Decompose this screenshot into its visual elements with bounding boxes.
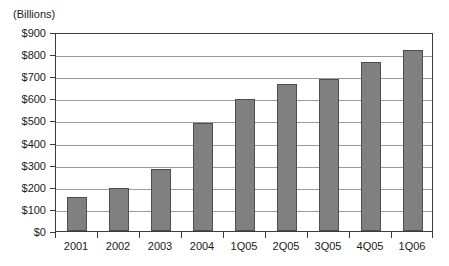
- x-axis-tick-label: 2001: [64, 240, 88, 253]
- y-axis-tick-label: $0: [34, 227, 46, 238]
- bar: [151, 169, 171, 231]
- x-axis-tick: [432, 232, 433, 238]
- x-axis-tick-label: 2Q05: [273, 240, 300, 253]
- y-axis: $0$100$200$300$400$500$600$700$800$900: [0, 0, 55, 266]
- y-axis-tick-label: $600: [22, 94, 46, 105]
- y-axis-tick-label: $900: [22, 28, 46, 39]
- y-axis-tick-label: $700: [22, 72, 46, 83]
- x-axis-tick: [55, 232, 56, 238]
- bar: [319, 79, 339, 231]
- x-axis-tick: [349, 232, 350, 238]
- y-axis-tick-label: $300: [22, 160, 46, 171]
- bar: [403, 50, 423, 231]
- x-axis-tick: [265, 232, 266, 238]
- x-axis-tick-label: 1Q06: [399, 240, 426, 253]
- bar: [67, 197, 87, 231]
- x-axis-tick-label: 3Q05: [315, 240, 342, 253]
- bar: [235, 99, 255, 231]
- bar-series: [56, 34, 432, 231]
- x-axis-ticks: [55, 232, 433, 238]
- x-axis-tick: [391, 232, 392, 238]
- x-axis-tick-label: 4Q05: [357, 240, 384, 253]
- plot-area: [55, 33, 433, 232]
- bar: [277, 84, 297, 231]
- x-axis-tick: [307, 232, 308, 238]
- bar: [109, 188, 129, 231]
- y-axis-tick-label: $100: [22, 204, 46, 215]
- x-axis-tick-label: 2004: [190, 240, 214, 253]
- x-axis-tick: [181, 232, 182, 238]
- bar-chart: (Billions) $0$100$200$300$400$500$600$70…: [0, 0, 449, 266]
- x-axis-tick: [223, 232, 224, 238]
- y-axis-tick-label: $400: [22, 138, 46, 149]
- bar: [193, 123, 213, 231]
- y-axis-tick-label: $800: [22, 50, 46, 61]
- x-axis-labels: 20012002200320041Q052Q053Q054Q051Q06: [55, 240, 433, 260]
- y-axis-tick-label: $500: [22, 116, 46, 127]
- x-axis-tick-label: 2003: [148, 240, 172, 253]
- x-axis-tick: [97, 232, 98, 238]
- bar: [361, 62, 381, 231]
- x-axis-tick-label: 1Q05: [231, 240, 258, 253]
- y-axis-tick-label: $200: [22, 182, 46, 193]
- x-axis-tick: [139, 232, 140, 238]
- x-axis-tick-label: 2002: [106, 240, 130, 253]
